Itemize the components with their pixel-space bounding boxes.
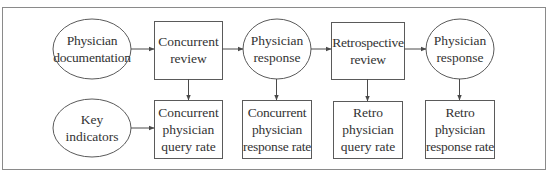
- label-retrospective-review: Retrospective review: [331, 22, 405, 79]
- label-physician-response-2: Physician response: [426, 19, 494, 79]
- label-physician-documentation: Physician documentation: [53, 19, 131, 79]
- label-retro-physician-query-rate: Retro physician query rate: [333, 101, 403, 158]
- label-key-indicators: Key indicators: [53, 99, 131, 157]
- label-concurrent-physician-query-rate: Concurrent physician query rate: [154, 100, 223, 158]
- label-concurrent-review: Concurrent review: [154, 21, 223, 79]
- label-retro-physician-response-rate: Retro physician response rate: [425, 100, 495, 158]
- label-concurrent-physician-response-rate: Concurrent physician response rate: [242, 100, 312, 158]
- label-physician-response-1: Physician response: [243, 19, 311, 79]
